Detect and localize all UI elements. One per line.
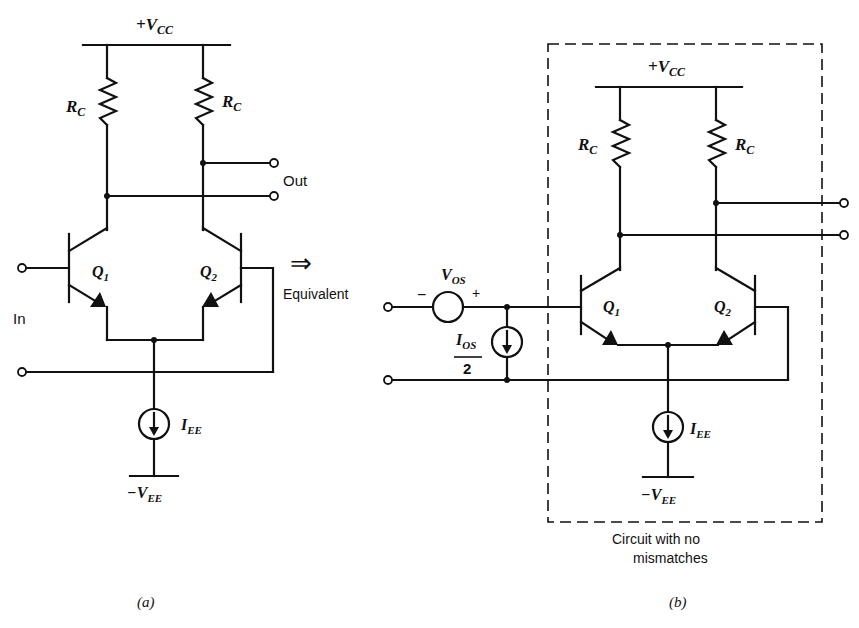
junction-dot — [104, 193, 110, 199]
label-q1-a: Q1 — [92, 263, 109, 283]
equivalent-arrow-icon: ⇒ — [290, 248, 312, 278]
box-caption-line2: mismatches — [633, 550, 708, 566]
transistor-q1-a — [18, 228, 107, 340]
output-terminal-2 — [270, 192, 278, 200]
current-source-iee-b — [653, 412, 683, 442]
label-rc-left-a: RC — [65, 97, 86, 119]
label-q2-b: Q2 — [714, 298, 732, 318]
resistor-rc-right-a — [196, 78, 212, 125]
transistor-q2-a — [202, 228, 273, 372]
label-vee-b: −VEE — [641, 486, 676, 506]
label-equivalent: Equivalent — [283, 286, 348, 302]
resistor-rc-right-b — [709, 120, 725, 167]
label-vos: VOS — [441, 266, 466, 286]
label-rc-right-a: RC — [221, 92, 242, 114]
label-iee-b: IEE — [689, 420, 711, 440]
label-vos-minus: − — [417, 286, 426, 303]
input-terminal-2 — [18, 368, 26, 376]
label-iee-a: IEE — [180, 416, 202, 436]
input-terminal-1 — [18, 264, 26, 272]
caption-a: (a) — [137, 594, 155, 611]
label-vcc-a: +VCC — [136, 15, 174, 37]
input-terminal-b1 — [384, 303, 392, 311]
label-ios-numerator: IOS — [455, 331, 476, 351]
label-rc-left-b: RC — [577, 135, 598, 157]
label-q1-b: Q1 — [603, 298, 620, 318]
output-terminal-b2 — [840, 231, 848, 239]
transistor-q2-b — [668, 268, 788, 380]
resistor-rc-left-b — [613, 120, 629, 167]
figure-canvas: +VCC RC RC Q1 Q2 IEE −VEE In Out (a) ⇒ E… — [0, 0, 859, 628]
label-vos-plus: + — [472, 285, 480, 301]
label-ios-denominator: 2 — [463, 360, 471, 377]
current-source-ios-half — [492, 327, 522, 357]
caption-b: (b) — [669, 594, 687, 611]
input-terminal-b2 — [384, 376, 392, 384]
label-q2-a: Q2 — [200, 263, 218, 283]
junction-dot — [200, 160, 206, 166]
label-out: Out — [283, 172, 308, 189]
label-in: In — [13, 310, 26, 327]
transistor-q1-b — [581, 268, 668, 345]
label-rc-right-b: RC — [734, 135, 755, 157]
resistor-rc-left-a — [100, 78, 116, 125]
current-source-iee-a — [139, 409, 169, 439]
label-vcc-b: +VCC — [648, 57, 686, 79]
label-vee-a: −VEE — [127, 484, 162, 504]
voltage-source-vos — [433, 292, 463, 322]
no-mismatch-box — [548, 44, 822, 522]
box-caption-line1: Circuit with no — [612, 531, 700, 547]
output-terminal-1 — [270, 159, 278, 167]
output-terminal-b1 — [840, 199, 848, 207]
